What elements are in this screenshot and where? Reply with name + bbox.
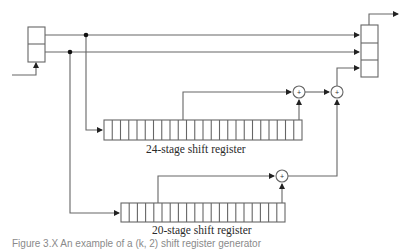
xor2-to-output	[337, 68, 359, 86]
xor-1-symbol: +	[297, 89, 301, 96]
output-arrow	[369, 14, 398, 25]
register-20	[121, 203, 285, 222]
tap-20-a	[158, 176, 274, 203]
input-arrow	[12, 63, 36, 75]
output-register	[361, 25, 378, 77]
xor-2-symbol: +	[335, 89, 339, 96]
xor3-to-xor2	[288, 100, 337, 176]
xor-3-symbol: +	[280, 173, 284, 180]
register-24	[104, 120, 302, 140]
tap-24-a	[183, 92, 291, 120]
feed-20-line	[70, 52, 119, 213]
feed-24-line	[86, 35, 102, 130]
junction-dot-1	[84, 33, 89, 38]
register-20-label: 20-stage shift register	[152, 224, 252, 236]
junction-dot-2	[68, 50, 73, 55]
input-register	[28, 27, 45, 62]
figure-caption: Figure 3.X An example of a (k, 2) shift …	[12, 238, 261, 249]
diagram-canvas: + + +	[0, 0, 411, 252]
register-24-label: 24-stage shift register	[146, 143, 246, 155]
